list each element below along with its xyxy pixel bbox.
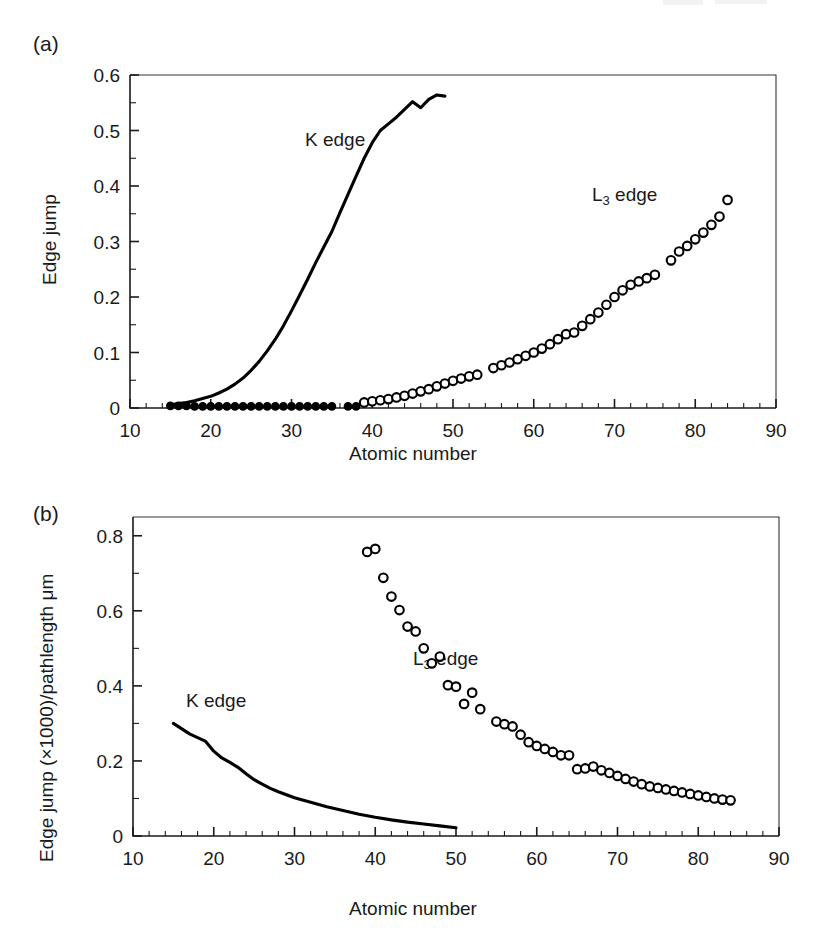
data-point	[167, 402, 174, 409]
data-point	[248, 403, 255, 410]
data-point	[379, 574, 388, 583]
data-point	[411, 627, 420, 636]
data-point	[460, 700, 469, 709]
data-point	[344, 403, 351, 410]
x-tick-label: 60	[526, 848, 547, 869]
x-tick-label: 50	[442, 420, 463, 441]
data-point	[565, 751, 574, 760]
x-tick-label: 70	[607, 848, 628, 869]
data-point	[707, 221, 716, 230]
panel-b: (b) Edge jump (×1000)/pathlength μm K ed…	[0, 470, 823, 934]
y-tick-label: 0.1	[94, 343, 120, 364]
x-tick-label: 30	[281, 420, 302, 441]
x-tick-label: 60	[523, 420, 544, 441]
data-point	[691, 235, 700, 244]
data-point	[578, 322, 587, 331]
data-point	[353, 403, 360, 410]
data-point	[516, 730, 525, 739]
data-point	[312, 403, 319, 410]
data-point	[183, 402, 190, 409]
y-tick-label: 0.6	[94, 65, 120, 86]
y-tick-label: 0.2	[94, 287, 120, 308]
data-point	[371, 545, 380, 554]
x-tick-label: 20	[203, 848, 224, 869]
data-point	[699, 228, 708, 237]
series-line-k-edge	[173, 723, 456, 827]
data-point	[239, 403, 246, 410]
data-point	[387, 592, 396, 601]
y-tick-label: 0.2	[97, 751, 123, 772]
data-point	[264, 403, 271, 410]
data-point	[280, 403, 287, 410]
data-point	[586, 315, 595, 324]
data-point	[175, 402, 182, 409]
data-point	[419, 644, 428, 653]
data-point	[395, 606, 404, 615]
data-point	[288, 403, 295, 410]
data-point	[215, 403, 222, 410]
y-tick-label: 0.4	[97, 676, 124, 697]
x-tick-label: 70	[604, 420, 625, 441]
data-point	[610, 293, 619, 302]
y-tick-label: 0.4	[94, 176, 121, 197]
data-point	[328, 403, 335, 410]
data-point	[452, 682, 461, 691]
data-point	[508, 722, 517, 731]
y-tick-label: 0.5	[94, 121, 120, 142]
data-point	[667, 256, 676, 265]
data-point	[403, 622, 412, 631]
y-tick-label: 0	[109, 398, 120, 419]
x-tick-label: 40	[362, 420, 383, 441]
data-point	[594, 308, 603, 317]
x-tick-label: 80	[685, 420, 706, 441]
data-point	[231, 403, 238, 410]
y-tick-label: 0.6	[97, 601, 123, 622]
data-point	[723, 196, 732, 205]
data-point	[651, 271, 660, 280]
data-point	[473, 370, 482, 379]
data-point	[272, 403, 279, 410]
data-point	[675, 247, 684, 256]
x-tick-label: 80	[688, 848, 709, 869]
x-tick-label: 10	[119, 420, 140, 441]
y-tick-label: 0.8	[97, 526, 123, 547]
data-point	[304, 403, 311, 410]
data-point	[191, 403, 198, 410]
data-point	[476, 705, 485, 714]
data-point	[427, 659, 436, 668]
y-tick-label: 0.3	[94, 232, 120, 253]
data-point	[256, 403, 263, 410]
data-point	[715, 212, 724, 221]
data-point	[296, 403, 303, 410]
data-point	[320, 403, 327, 410]
data-point	[683, 242, 692, 251]
x-tick-label: 90	[765, 420, 786, 441]
data-point	[618, 286, 627, 295]
y-tick-label: 0	[112, 826, 123, 847]
x-tick-label: 10	[122, 848, 143, 869]
data-point	[726, 796, 735, 805]
data-point	[468, 688, 477, 697]
data-point	[570, 328, 579, 337]
x-tick-label: 90	[768, 848, 789, 869]
x-tick-label: 50	[445, 848, 466, 869]
x-tick-label: 20	[200, 420, 221, 441]
panel-a: (a) Edge jump K edge L3 edge Atomic numb…	[0, 0, 823, 470]
panel-b-plot: 10203040506070809000.20.40.60.8	[0, 470, 823, 934]
panel-a-plot: 10203040506070809000.10.20.30.40.50.6	[0, 0, 823, 470]
data-point	[436, 652, 445, 661]
data-point	[199, 403, 206, 410]
data-point	[207, 403, 214, 410]
series-line-k-edge	[170, 95, 445, 405]
data-point	[223, 403, 230, 410]
data-point	[554, 335, 563, 344]
data-point	[546, 340, 555, 349]
x-tick-label: 30	[284, 848, 305, 869]
data-point	[602, 300, 611, 309]
x-tick-label: 40	[365, 848, 386, 869]
